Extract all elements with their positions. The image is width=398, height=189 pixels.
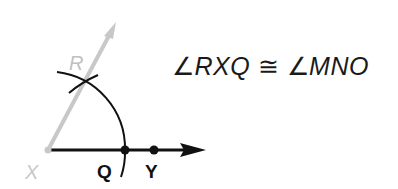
label-y: Y — [145, 161, 158, 182]
point-x — [45, 147, 52, 154]
label-x: X — [24, 161, 39, 183]
congruent-symbol-icon: ≅ — [258, 52, 280, 80]
ray-xr — [48, 22, 116, 150]
point-q — [121, 146, 130, 155]
label-q: Q — [97, 161, 112, 182]
left-angle-name: RXQ — [195, 52, 251, 80]
angle-symbol-icon: ∠ — [287, 52, 310, 80]
angle-construction-diagram: R X Q Y — [0, 0, 398, 189]
ray-xr-arrowhead-icon — [104, 22, 116, 39]
angle-symbol-icon: ∠ — [172, 52, 195, 80]
congruence-statement: ∠RXQ ≅ ∠MNO — [172, 52, 369, 81]
point-y — [150, 146, 159, 155]
right-angle-name: MNO — [309, 52, 369, 80]
label-r: R — [69, 52, 83, 74]
